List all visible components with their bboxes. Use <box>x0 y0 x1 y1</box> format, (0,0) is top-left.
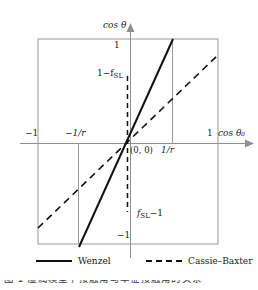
y-tick-label-fsl-minus-one: fSL−1 <box>137 209 163 218</box>
y-tick-label-1: 1 <box>114 41 120 50</box>
legend-item-cassie-baxter: Cassie–Baxter <box>146 252 253 270</box>
y-tick-label-minus-1: −1 <box>117 231 130 240</box>
legend-swatch-dashed <box>146 260 182 262</box>
y-tick-label-one-minus-fsl: 1−fSL <box>97 69 123 78</box>
y-tick-text-minus-one: −1 <box>150 208 163 218</box>
x-axis-label: cos θ₀ <box>218 129 245 138</box>
legend: Wenzel Cassie–Baxter <box>0 252 258 270</box>
origin-label: (0, 0) <box>130 146 153 155</box>
figure-caption-text: 图 1 湿润模型下接触角与本征接触角的关系 <box>4 280 202 285</box>
y-tick-text-main: 1−f <box>97 68 114 78</box>
y-axis-label: cos θ <box>103 21 126 30</box>
x-tick-label-minus-inv-r: −1/r <box>65 129 86 138</box>
x-tick-label-1: 1 <box>207 129 213 138</box>
legend-item-wenzel: Wenzel <box>36 252 111 270</box>
x-tick-label-minus-1: −1 <box>25 129 38 138</box>
x-axis-arrow <box>245 140 254 148</box>
figure-caption-clipped: 图 1 湿润模型下接触角与本征接触角的关系 <box>0 280 258 290</box>
y-tick-subscript-sl: SL <box>114 72 123 80</box>
figure-container: cos θ cos θ₀ 1 1−fSL fSL−1 −1 −1 −1/r 1/… <box>0 0 258 290</box>
legend-label-wenzel: Wenzel <box>78 256 111 266</box>
x-tick-label-inv-r: 1/r <box>161 146 174 155</box>
legend-label-cassie-baxter: Cassie–Baxter <box>188 256 253 266</box>
legend-swatch-solid <box>36 260 72 262</box>
y-axis-arrow <box>127 23 135 32</box>
y-tick-subscript-sl-2: SL <box>140 212 149 220</box>
